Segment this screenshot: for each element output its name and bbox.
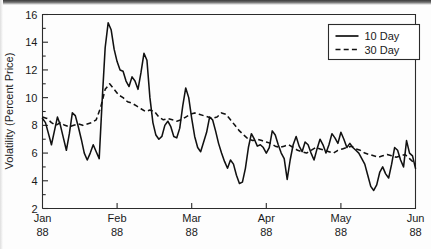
series-line-30-day — [43, 84, 416, 164]
y-tick-label: 8 — [31, 119, 37, 131]
x-tick-label-month: May — [331, 212, 352, 224]
legend-label-30-day[interactable]: 30 Day — [365, 44, 400, 56]
x-tick-label-year: 88 — [36, 226, 48, 238]
y-tick-label: 16 — [25, 9, 37, 21]
x-tick-label-month: Feb — [108, 212, 127, 224]
y-axis-title-text: Volatility (Percent Price) — [3, 53, 15, 170]
x-tick-label-month: Jun — [407, 212, 425, 224]
x-tick-label-year: 88 — [186, 226, 198, 238]
y-tick-label: 10 — [25, 92, 37, 104]
chart-legend[interactable]: 10 Day30 Day — [329, 25, 420, 60]
y-tick-label: 4 — [31, 175, 37, 187]
x-tick-label-month: Apr — [258, 212, 275, 224]
x-tick-label-year: 88 — [260, 226, 272, 238]
y-axis-title: Volatility (Percent Price) — [3, 53, 15, 170]
x-tick-label-year: 88 — [409, 226, 421, 238]
x-tick-label-year: 88 — [335, 226, 347, 238]
y-tick-label: 6 — [31, 147, 37, 159]
y-tick-label: 12 — [25, 64, 37, 76]
figure-container: 246810121416Jan88Feb88Mar88Apr88May88Jun… — [0, 0, 431, 249]
x-tick-label-month: Jan — [34, 212, 52, 224]
x-tick-label-month: Mar — [182, 212, 201, 224]
volatility-line-chart: 246810121416Jan88Feb88Mar88Apr88May88Jun… — [0, 0, 431, 249]
x-tick-label-year: 88 — [111, 226, 123, 238]
y-tick-label: 14 — [25, 36, 37, 48]
legend-label-10-day[interactable]: 10 Day — [365, 30, 400, 42]
